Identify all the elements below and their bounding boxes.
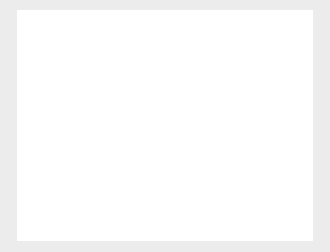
figure-panel xyxy=(17,10,313,241)
chart-container: 12001250130013501400High price/Low price… xyxy=(0,0,330,252)
